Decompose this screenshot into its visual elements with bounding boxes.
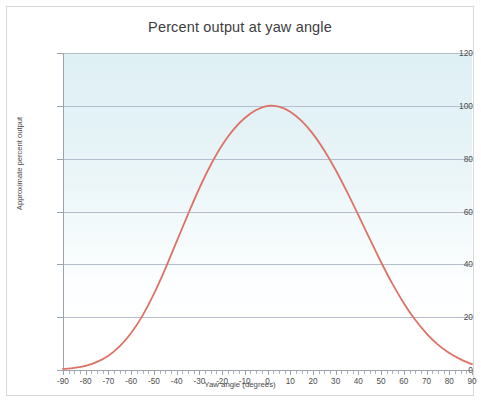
x-tick-mark-minor [466,371,467,374]
x-tick-mark-80 [449,371,450,375]
x-tick-mark-minor [188,371,189,374]
x-tick-mark-90 [472,371,473,375]
x-tick-mark-minor [364,371,365,374]
percent-output-curve [63,106,472,369]
x-tick-mark-minor [370,371,371,374]
x-tick-mark-minor [148,371,149,374]
chart-container: Percent output at yaw angle Approximate … [6,6,474,396]
x-tick-mark-minor [74,371,75,374]
x-tick-mark-minor [228,371,229,374]
chart-title: Percent output at yaw angle [7,19,473,35]
x-tick-mark-minor [455,371,456,374]
x-tick-mark-minor [415,371,416,374]
x-tick-mark-minor [302,371,303,374]
y-tick-mark-80 [57,159,63,160]
x-tick-mark-minor [279,371,280,374]
x-tick-mark-minor [205,371,206,374]
x-tick-mark--90 [63,371,64,375]
y-tick-mark-100 [57,106,63,107]
x-tick-mark-minor [80,371,81,374]
x-tick-mark-minor [324,371,325,374]
y-tick-label-60: 60 [439,207,473,217]
x-tick-mark-minor [296,371,297,374]
x-tick-mark-70 [427,371,428,375]
x-tick-mark-minor [91,371,92,374]
x-tick-mark-minor [319,371,320,374]
x-tick-mark-minor [233,371,234,374]
x-tick-mark--80 [86,371,87,375]
x-tick-mark--30 [199,371,200,375]
x-tick-mark-minor [143,371,144,374]
x-tick-mark-minor [171,371,172,374]
x-tick-mark-minor [387,371,388,374]
x-tick-mark-minor [347,371,348,374]
y-tick-mark-120 [57,53,63,54]
x-tick-mark-minor [444,371,445,374]
x-tick-mark-20 [313,371,314,375]
x-tick-mark--50 [154,371,155,375]
x-tick-mark-60 [404,371,405,375]
x-tick-mark-minor [120,371,121,374]
y-tick-mark-20 [57,317,63,318]
x-tick-mark-minor [137,371,138,374]
x-tick-mark-minor [97,371,98,374]
x-tick-mark-minor [182,371,183,374]
x-tick-mark-minor [421,371,422,374]
data-series-line [63,53,472,371]
x-tick-mark-minor [211,371,212,374]
x-tick-mark-minor [194,371,195,374]
x-tick-mark--40 [177,371,178,375]
x-axis-title: Yaw angle (degrees) [7,380,473,389]
x-tick-mark-minor [114,371,115,374]
y-tick-label-20: 20 [439,312,473,322]
x-tick-mark-minor [410,371,411,374]
x-tick-mark-minor [103,371,104,374]
x-tick-mark-minor [432,371,433,374]
y-tick-mark-40 [57,264,63,265]
y-tick-label-0: 0 [439,365,473,375]
x-tick-mark-minor [330,371,331,374]
x-tick-mark-minor [239,371,240,374]
x-tick-mark--60 [131,371,132,375]
x-tick-mark-minor [375,371,376,374]
x-tick-mark-minor [69,371,70,374]
x-tick-mark-minor [273,371,274,374]
y-tick-label-100: 100 [439,101,473,111]
x-tick-mark-minor [216,371,217,374]
y-tick-label-80: 80 [439,154,473,164]
x-tick-mark--70 [108,371,109,375]
x-tick-mark-minor [285,371,286,374]
x-tick-mark-minor [160,371,161,374]
x-tick-mark-50 [381,371,382,375]
x-tick-mark-minor [165,371,166,374]
x-tick-mark-minor [256,371,257,374]
y-tick-mark-60 [57,212,63,213]
x-tick-mark-30 [336,371,337,375]
x-tick-mark-minor [307,371,308,374]
y-tick-label-40: 40 [439,259,473,269]
x-tick-mark-minor [461,371,462,374]
x-tick-mark-minor [353,371,354,374]
y-tick-label-120: 120 [439,48,473,58]
x-tick-mark-minor [438,371,439,374]
x-tick-mark-minor [125,371,126,374]
x-tick-mark-minor [341,371,342,374]
x-tick-mark-minor [398,371,399,374]
y-axis-title: Approximate percent output [15,104,24,224]
x-tick-mark-minor [392,371,393,374]
x-tick-mark-40 [358,371,359,375]
x-tick-mark-minor [250,371,251,374]
x-tick-mark--10 [245,371,246,375]
x-tick-mark--20 [222,371,223,375]
x-tick-mark-0 [268,371,269,375]
x-tick-mark-minor [262,371,263,374]
x-tick-mark-10 [290,371,291,375]
